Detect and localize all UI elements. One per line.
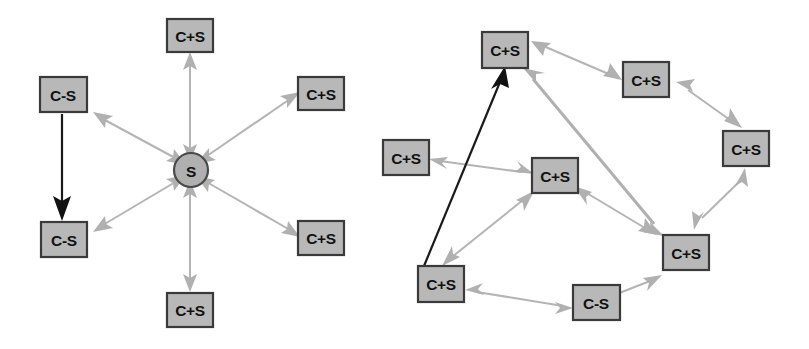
node-label: C+S xyxy=(426,276,456,293)
edge-hub-lower-left xyxy=(93,175,186,232)
node-right-left[interactable]: C+S xyxy=(383,140,429,175)
edge-hub-bottom xyxy=(183,180,197,292)
node-right-far-right[interactable]: C+S xyxy=(723,131,769,166)
edge-r1-r2 xyxy=(531,41,622,80)
node-label: C+S xyxy=(306,86,336,103)
node-right-bottom-left[interactable]: C+S xyxy=(418,266,464,302)
edge-r6-r7 xyxy=(442,191,534,266)
node-left-lower-left[interactable]: C-S xyxy=(41,222,87,257)
node-label: C-S xyxy=(50,87,76,104)
node-label: C+S xyxy=(175,28,205,45)
edge-r8-r7 xyxy=(429,157,534,174)
right-edges xyxy=(424,41,748,314)
edge-hub-upper-right xyxy=(196,92,300,164)
node-label: C+S xyxy=(490,42,520,59)
node-label: C+S xyxy=(391,150,421,167)
node-label: C-S xyxy=(51,232,77,249)
node-label: C+S xyxy=(306,230,336,247)
edge-r6-to-r1-directed xyxy=(424,66,509,266)
figure-root: S C+S C+S C+S C+S C-S xyxy=(0,0,809,349)
edge-hub-lower-right xyxy=(196,176,300,237)
node-label: C+S xyxy=(175,302,205,319)
left-diagram: S C+S C+S C+S C+S C-S xyxy=(40,19,344,327)
edge-hub-upper-left xyxy=(93,112,186,165)
node-right-center[interactable]: C+S xyxy=(532,158,578,193)
node-hub-s[interactable]: S xyxy=(174,153,208,187)
node-label: C+S xyxy=(731,141,761,158)
edge-r2-r3 xyxy=(676,79,742,128)
right-diagram: C+S C+S C+S C+S C-S C+S xyxy=(383,32,769,320)
diagram-canvas: S C+S C+S C+S C+S C-S xyxy=(0,0,809,349)
edge-r5-r6 xyxy=(465,283,573,314)
node-left-top[interactable]: C+S xyxy=(167,19,213,52)
node-right-top-left[interactable]: C+S xyxy=(482,32,528,68)
node-right-center-right[interactable]: C+S xyxy=(663,235,709,270)
node-label: C+S xyxy=(671,245,701,262)
node-left-lower-right[interactable]: C+S xyxy=(298,221,344,255)
node-label: C+S xyxy=(631,72,661,89)
node-label: C+S xyxy=(540,168,570,185)
edge-hub-top xyxy=(183,52,197,162)
node-left-upper-right[interactable]: C+S xyxy=(298,77,344,110)
node-right-bottom-center[interactable]: C-S xyxy=(573,285,620,320)
edge-cs-to-cs-directed xyxy=(53,114,71,221)
node-label: C-S xyxy=(583,295,609,312)
node-right-top-right[interactable]: C+S xyxy=(623,62,669,97)
node-left-upper-left[interactable]: C-S xyxy=(40,77,87,112)
node-label: S xyxy=(186,163,196,180)
edge-r3-r4 xyxy=(692,168,748,230)
node-left-bottom[interactable]: C+S xyxy=(167,293,213,327)
